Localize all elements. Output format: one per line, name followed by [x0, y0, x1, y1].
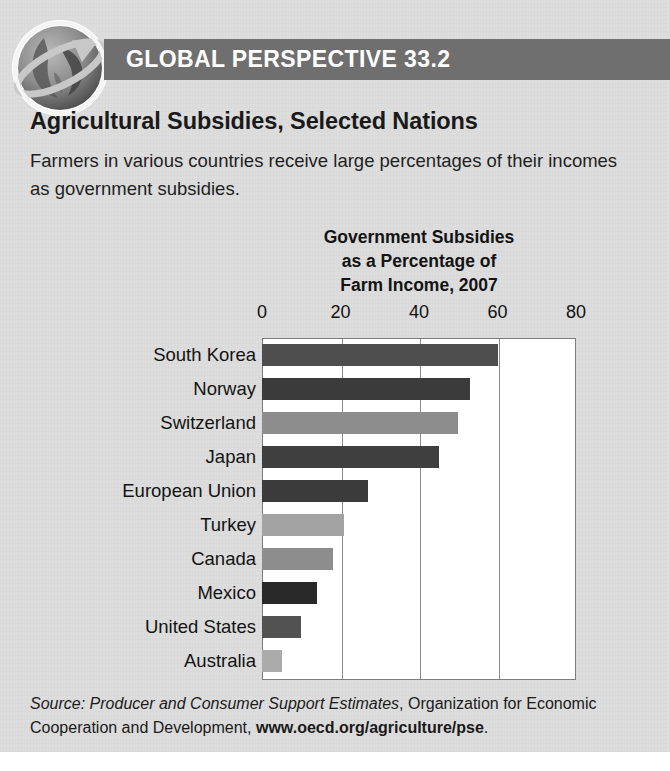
x-tick-label: 80 [566, 302, 586, 323]
x-axis-tick-labels: 020406080 [262, 302, 576, 326]
global-perspective-header-band: GLOBAL PERSPECTIVE 33.2 [104, 39, 670, 80]
chart-bar [262, 582, 317, 604]
chart-category-label: Mexico [197, 582, 256, 604]
chart-bar [262, 344, 498, 366]
chart-category-label: Norway [193, 378, 256, 400]
global-perspective-panel: GLOBAL PERSPECTIVE 33.2 Agricultural Sub… [0, 0, 670, 752]
x-tick-label: 60 [487, 302, 507, 323]
chart-bar [262, 548, 333, 570]
chart-bar [262, 650, 282, 672]
source-suffix: . [484, 719, 488, 736]
chart-bar [262, 616, 301, 638]
header-title: GLOBAL PERSPECTIVE 33.2 [126, 46, 450, 73]
chart-category-label: Turkey [200, 514, 256, 536]
chart-category-label: Australia [184, 650, 256, 672]
chart-category-label: Canada [191, 548, 256, 570]
globe-arrow-icon [10, 18, 110, 118]
x-tick-label: 20 [330, 302, 350, 323]
chart-category-label: European Union [122, 480, 256, 502]
source-title: Producer and Consumer Support Estimates [90, 695, 399, 712]
chart-category-label: Japan [206, 446, 256, 468]
page-title: Agricultural Subsidies, Selected Nations [30, 108, 640, 135]
chart-category-label: United States [145, 616, 256, 638]
source-note: Source: Producer and Consumer Support Es… [30, 692, 642, 740]
chart-category-label: South Korea [153, 344, 256, 366]
chart-bar [262, 446, 439, 468]
chart-bar [262, 514, 344, 536]
chart-bars [262, 338, 576, 680]
chart-title-line: as a Percentage of [262, 249, 576, 273]
chart-category-labels: South KoreaNorwaySwitzerlandJapanEuropea… [20, 338, 256, 680]
chart-title-line: Government Subsidies [262, 225, 576, 249]
chart-title: Government Subsidiesas a Percentage ofFa… [262, 225, 576, 297]
chart-bar [262, 412, 458, 434]
x-tick-label: 40 [409, 302, 429, 323]
chart-bar [262, 480, 368, 502]
chart-title-line: Farm Income, 2007 [262, 273, 576, 297]
source-prefix: Source: [30, 695, 85, 712]
section-description: Farmers in various countries receive lar… [30, 147, 630, 203]
chart-bar [262, 378, 470, 400]
page-bottom-strip [0, 752, 670, 771]
chart-category-label: Switzerland [160, 412, 256, 434]
x-tick-label: 0 [257, 302, 267, 323]
source-url[interactable]: www.oecd.org/agriculture/pse [256, 719, 484, 736]
